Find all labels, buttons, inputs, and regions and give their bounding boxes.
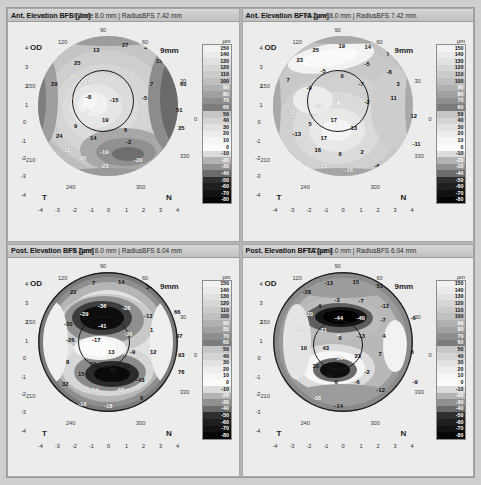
color-scale-bar[interactable]: µm 150 140 130 120 110 100 90 80 70 60 5…: [202, 274, 232, 440]
axis-y-tick: 3: [25, 301, 28, 307]
map-disc[interactable]: + 25 19 14 7 23 -5 -8 0 -5 -7 3 7 -9: [273, 36, 413, 176]
eye-label: OD: [265, 44, 277, 52]
map-disc[interactable]: + 13 27 3 25 15 -21 -17 -24 29 -8 -15 -2…: [38, 36, 178, 176]
scale-tick: 130: [455, 59, 465, 64]
axis-y-tick: 0: [258, 356, 261, 362]
map-value: 0: [341, 74, 344, 80]
axis-y-tick: 3: [260, 301, 263, 307]
map-value: -29: [80, 312, 88, 318]
scale-tick: 80: [223, 327, 230, 332]
map-disc[interactable]: + -13 15 53 -28 -3 -7 -12 -6 -20 -44 -40…: [273, 272, 413, 412]
angle-label-30: 30: [180, 79, 186, 85]
axis-x-tick: -4: [273, 208, 278, 214]
temporal-label: T: [42, 430, 47, 438]
map-value: -13: [144, 314, 152, 320]
elevation-map-post-bfta[interactable]: + -13 15 53 -28 -3 -7 -12 -6 -20 -44 -40…: [243, 258, 439, 466]
axis-x-tick: 0: [107, 444, 110, 450]
angle-label-0: 0: [194, 117, 197, 123]
angle-label-0: 0: [429, 353, 432, 359]
map-value: 3: [397, 82, 400, 88]
scale-tick: -30: [456, 400, 465, 405]
panel-ant-elevation-bfs[interactable]: Ant. Elevation BFS [µm] Fit Zone 8.0 mm …: [7, 8, 240, 242]
map-value: -17: [92, 338, 100, 344]
map-value: 51: [176, 108, 182, 114]
scale-tick: 50: [223, 347, 230, 352]
map-value: -16: [345, 168, 353, 174]
map-value: -65: [116, 388, 124, 394]
map-value: 5: [309, 122, 312, 128]
scale-tick: 40: [223, 118, 230, 123]
axis-x-tick: 4: [411, 444, 414, 450]
axis-x-tick: -2: [72, 444, 77, 450]
elevation-map-post-bfs[interactable]: + 7 14 34 22 -36 -28 -29 -13 -30 -41 -36…: [8, 258, 204, 466]
panel-ant-elevation-bfta[interactable]: Ant. Elevation BFTA [µm] Fit Zone 8.0 mm…: [242, 8, 475, 242]
axis-x-tick: -3: [55, 208, 60, 214]
map-value: 13: [351, 126, 357, 132]
scale-tick: 40: [458, 354, 465, 359]
map-disc[interactable]: + 7 14 34 22 -36 -28 -29 -13 -30 -41 -36…: [38, 272, 178, 412]
map-value: -2: [365, 100, 370, 106]
axis-y-tick: -3: [256, 410, 261, 416]
nasal-label: N: [401, 430, 407, 438]
map-value: -9: [413, 380, 418, 386]
axis-x-tick: -1: [89, 208, 94, 214]
scale-tick: 50: [458, 347, 465, 352]
axis-y-tick: 3: [260, 65, 263, 71]
scale-tick: 100: [455, 79, 465, 84]
map-value: -12: [377, 388, 385, 394]
scale-tick: 30: [223, 360, 230, 365]
angle-label-60: 60: [377, 40, 383, 46]
color-scale-swatches[interactable]: 150 140 130 120 110 100 90 80 70 60 50 4…: [202, 44, 232, 204]
color-scale-bar[interactable]: µm 150 140 130 120 110 100 90 80 70 60 5…: [436, 274, 466, 440]
elevation-map-ant-bfta[interactable]: + 25 19 14 7 23 -5 -8 0 -5 -7 3 7 -9: [243, 22, 439, 230]
angle-label-240: 240: [301, 421, 310, 427]
scale-tick: 80: [223, 92, 230, 97]
scale-tick: -70: [456, 426, 465, 431]
axis-x-tick: -1: [324, 208, 329, 214]
temporal-label: T: [277, 430, 282, 438]
angle-label-90: 90: [100, 264, 106, 270]
map-value: 7: [379, 352, 382, 358]
axis-x-tick: 3: [394, 444, 397, 450]
map-value: 15: [124, 364, 130, 370]
panel-post-elevation-bfs[interactable]: Post. Elevation BFS [µm] Fit Zone 8.0 mm…: [7, 244, 240, 478]
angle-label-300: 300: [371, 421, 380, 427]
map-value: 9: [74, 124, 77, 130]
angle-label-90: 90: [335, 28, 341, 34]
map-value: 7: [387, 52, 390, 58]
scale-tick: 20: [458, 367, 465, 372]
nasal-label: N: [166, 194, 172, 202]
map-value: -9: [130, 350, 135, 356]
angle-label-240: 240: [66, 185, 75, 191]
axis-x-tick: -4: [273, 444, 278, 450]
scale-tick: 0: [226, 145, 230, 150]
map-value: -13: [293, 132, 301, 138]
angle-label-210: 210: [26, 158, 35, 164]
angle-label-300: 300: [371, 185, 380, 191]
scale-tick: 40: [223, 354, 230, 359]
axis-y-tick: 4: [25, 46, 28, 52]
panel-header: Ant. Elevation BFTA [µm] Fit Zone 8.0 mm…: [243, 9, 474, 22]
axis-x-tick: 3: [159, 208, 162, 214]
map-value: 47: [110, 368, 116, 374]
nasal-label: N: [401, 194, 407, 202]
diameter-label: 9mm: [160, 47, 179, 55]
scale-tick: 110: [220, 72, 230, 77]
axis-x-tick: 1: [125, 208, 128, 214]
map-value: -33: [325, 374, 333, 380]
map-value: -9: [307, 86, 312, 92]
map-value: 43: [323, 346, 329, 352]
color-scale-bar[interactable]: µm 150 140 130 120 110 100 90 80 70 60 5…: [436, 38, 466, 204]
scale-tick: 140: [455, 288, 465, 293]
axis-y-tick: -1: [21, 375, 26, 381]
panel-header: Ant. Elevation BFS [µm] Fit Zone 8.0 mm …: [8, 9, 239, 22]
axis-x-tick: 2: [377, 444, 380, 450]
elevation-map-ant-bfs[interactable]: + 13 27 3 25 15 -21 -17 -24 29 -8 -15 -2…: [8, 22, 204, 230]
color-scale-swatches[interactable]: 150 140 130 120 110 100 90 80 70 60 50 4…: [202, 280, 232, 440]
map-value: -17: [319, 164, 327, 170]
color-scale-swatches[interactable]: 150 140 130 120 110 100 90 80 70 60 50 4…: [436, 280, 466, 440]
color-scale-swatches[interactable]: 150 140 130 120 110 100 90 80 70 60 50 4…: [436, 44, 466, 204]
axis-y-tick: -2: [21, 392, 26, 398]
panel-post-elevation-bfta[interactable]: Post. Elevation BFTA [µm] Fit Zone 8.0 m…: [242, 244, 475, 478]
color-scale-bar[interactable]: µm 150 140 130 120 110 100 90 80 70 60 5…: [202, 38, 232, 204]
